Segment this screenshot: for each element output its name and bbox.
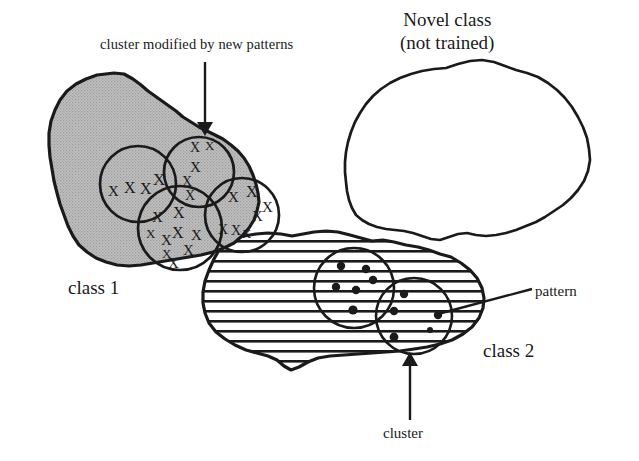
svg-text:X: X xyxy=(124,179,136,196)
svg-text:X: X xyxy=(168,255,179,271)
annotation-label-cluster: cluster xyxy=(383,425,423,442)
svg-text:X: X xyxy=(190,140,200,155)
annotation-label-pattern: pattern xyxy=(535,283,577,300)
svg-text:X: X xyxy=(108,183,119,199)
svg-text:X: X xyxy=(246,183,258,200)
svg-text:X: X xyxy=(242,226,252,241)
arrow-cluster-modified xyxy=(197,62,213,136)
svg-text:X: X xyxy=(218,222,228,237)
novel-class-region xyxy=(345,60,590,240)
svg-text:X: X xyxy=(231,223,241,238)
svg-text:X: X xyxy=(183,242,194,258)
svg-text:X: X xyxy=(205,138,215,153)
svg-text:X: X xyxy=(262,199,273,215)
svg-text:X: X xyxy=(185,188,195,203)
svg-text:X: X xyxy=(190,159,201,175)
svg-text:X: X xyxy=(152,209,163,225)
region-label-novel-class: Novel class(not trained) xyxy=(400,8,494,54)
svg-text:X: X xyxy=(191,227,202,243)
novel-class-line-2: (not trained) xyxy=(400,31,494,54)
svg-text:X: X xyxy=(228,189,239,205)
novel-class-line-1: Novel class xyxy=(403,9,491,30)
svg-text:X: X xyxy=(173,204,185,221)
diagram-svg: X X X X X X X X X X X X X X xyxy=(0,0,639,461)
svg-text:X: X xyxy=(172,224,184,241)
novel-class-outline xyxy=(345,60,590,240)
arrow-cluster-bottom xyxy=(402,352,418,420)
diagram-canvas: X X X X X X X X X X X X X X xyxy=(0,0,639,461)
region-label-class-1: class 1 xyxy=(68,277,119,299)
svg-text:X: X xyxy=(252,208,263,224)
svg-text:X: X xyxy=(140,180,152,197)
region-label-class-2: class 2 xyxy=(483,340,534,362)
annotation-label-cluster-modified: cluster modified by new patterns xyxy=(100,36,293,53)
svg-text:X: X xyxy=(146,226,156,241)
